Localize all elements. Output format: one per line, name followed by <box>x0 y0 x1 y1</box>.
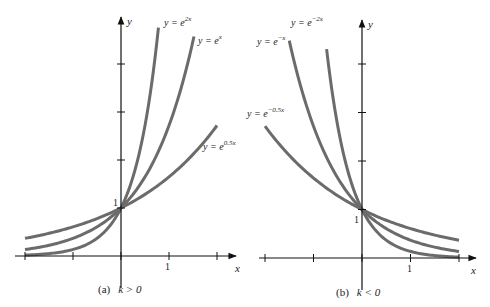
label-ex: y = ex <box>197 33 223 46</box>
panel-a-one-label: 1 <box>113 197 118 208</box>
curve-ye-2x <box>327 49 459 257</box>
panel-b-x-axis-label: x <box>470 264 476 276</box>
panel-b-x-one-label: 1 <box>407 263 412 274</box>
panel-b-one-label: 1 <box>354 214 359 225</box>
label-e2x: y = e2x <box>163 15 192 28</box>
panel-a-y-axis-label: y <box>126 15 132 27</box>
label-em05x: y = e−0.5x <box>246 106 285 119</box>
panel-b-y-axis-label: y <box>367 18 373 30</box>
curve-ye-x <box>289 41 459 252</box>
panel-b-k-negative: x y 1 1 y = e−2x y = e−x y = e−0.5x (b)k… <box>246 15 476 299</box>
panel-a-x-axis-label: x <box>234 262 240 274</box>
label-emx: y = e−x <box>256 34 286 47</box>
panel-a-k-positive: x y 1 1 y = e2x y = ex y = e0.5x (a)k > … <box>15 15 240 296</box>
exponential-figure: x y 1 1 y = e2x y = ex y = e0.5x (a)k > … <box>0 0 490 307</box>
panel-a-caption: (a)k > 0 <box>98 283 142 296</box>
panel-b-caption: (b)k < 0 <box>336 286 381 299</box>
curve-yex <box>25 37 194 250</box>
label-em2x: y = e−2x <box>290 15 324 28</box>
panel-a-x-one-label: 1 <box>165 261 170 272</box>
label-e05x: y = e0.5x <box>202 139 236 152</box>
